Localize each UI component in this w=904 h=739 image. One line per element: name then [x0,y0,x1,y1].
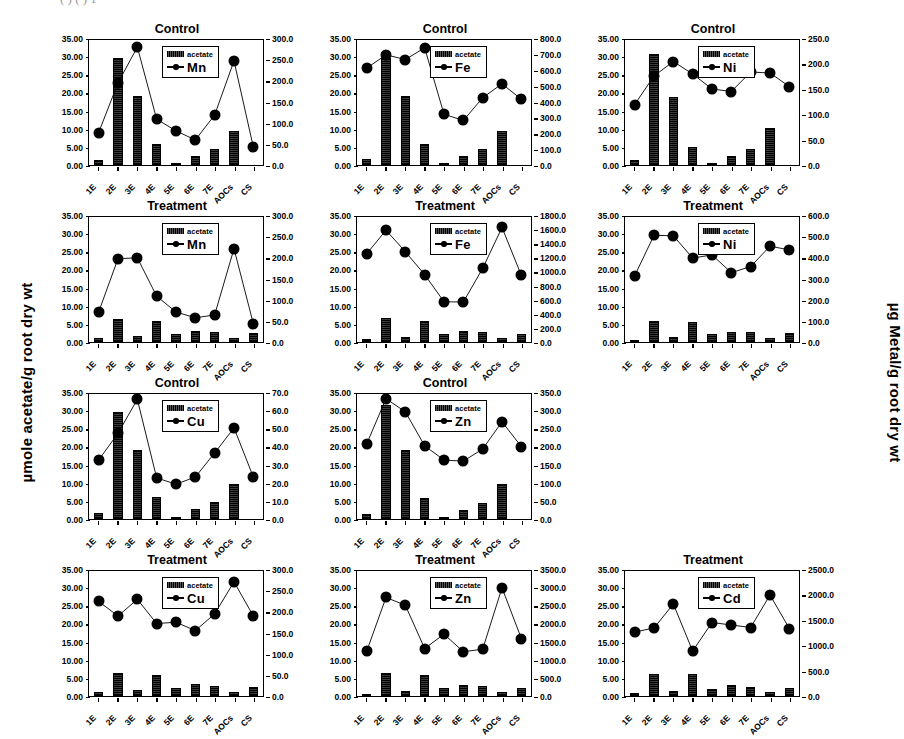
right-tick-label: 400.0 [540,98,561,108]
legend-line-marker [167,240,184,248]
x-tick [117,521,118,525]
right-tick-label: 3500.0 [540,565,566,575]
x-tick [653,344,654,348]
left-tick-label: 10.00 [598,125,619,135]
right-tick-label: 250.0 [808,34,829,44]
x-tick [235,521,236,525]
chart-legend: acetateMn [162,46,219,78]
metal-data-point [361,646,372,657]
chart-legend: acetateCu [162,400,219,432]
x-axis-labels: 1E2E3E4E5E6E7EAOCsCS [624,698,800,732]
left-tick-label: 20.00 [330,88,351,98]
metal-data-point [439,296,450,307]
legend-acetate-label: acetate [723,582,749,590]
metal-data-point [477,92,488,103]
x-tick [385,521,386,525]
right-tick-label: 500.0 [808,232,829,242]
left-tick-label: 20.00 [62,442,83,452]
chart-panel-ni-control: Control0.005.0010.0015.0020.0025.0030.00… [582,22,844,198]
left-axis-ticks: 0.005.0010.0015.0020.0025.0030.0035.00 [582,570,622,697]
metal-data-point [171,307,182,318]
right-tick-label: 2000.0 [808,590,834,600]
x-tick [215,521,216,525]
right-tick-label: 100.0 [272,119,293,129]
chart-legend: acetateCu [162,577,219,609]
x-tick [692,698,693,702]
left-tick-label: 5.00 [602,143,619,153]
right-tick-label: 600.0 [540,296,561,306]
panel-grid: Control0.005.0010.0015.0020.0025.0030.00… [46,22,836,732]
right-tick-label: 200.0 [540,442,561,452]
metal-data-point [381,49,392,60]
plot-frame: acetateCu [88,570,264,697]
x-tick [751,698,752,702]
left-tick-label: 15.00 [62,461,83,471]
plot-area: acetateNi [624,39,800,166]
legend-acetate-label: acetate [723,51,749,59]
right-axis-ticks: 0.050.0100.0150.0200.0250.0300.0 [266,570,308,697]
x-tick [117,167,118,171]
left-tick-label: 30.00 [62,406,83,416]
x-tick [483,344,484,348]
left-tick-label: 20.00 [598,265,619,275]
metal-data-point [668,230,679,241]
left-tick-label: 20.00 [62,265,83,275]
metal-data-point [649,71,660,82]
x-tick [156,344,157,348]
left-tick-label: 35.00 [62,565,83,575]
panel-title: Treatment [314,199,576,213]
right-tick-label: 70.0 [272,388,289,398]
left-tick-label: 35.00 [62,211,83,221]
left-tick-label: 0.00 [334,161,351,171]
metal-data-point [765,241,776,252]
metal-data-point [745,261,756,272]
plot-area: acetateMn [88,39,264,166]
right-axis-ticks: 0.0100.0200.0300.0400.0500.0600.0 [802,216,844,343]
metal-data-point [497,416,508,427]
right-tick-label: 400.0 [540,310,561,320]
metal-data-point [93,455,104,466]
left-tick-label: 10.00 [330,302,351,312]
chart-legend: acetateNi [698,223,755,255]
metal-data-point [132,394,143,405]
x-tick [464,344,465,348]
metal-data-point [629,99,640,110]
metal-data-point [784,81,795,92]
x-tick [196,167,197,171]
right-tick-label: 0.0 [540,338,552,348]
x-tick [673,167,674,171]
legend-acetate-swatch [435,51,452,57]
left-tick-label: 30.00 [330,229,351,239]
metal-data-point [93,596,104,607]
right-tick-label: 1400.0 [540,239,566,249]
metal-data-point [113,428,124,439]
left-tick-label: 25.00 [598,70,619,80]
metal-data-point [419,440,430,451]
plot-area: acetateCd [624,570,800,697]
metal-data-point [765,68,776,79]
plot-frame: acetateMn [88,39,264,166]
right-tick-label: 0.0 [272,692,284,702]
x-tick [235,698,236,702]
x-tick [634,167,635,171]
left-tick-label: 15.00 [62,638,83,648]
plot-area: acetateFe [356,39,532,166]
right-tick-label: 250.0 [272,232,293,242]
right-tick-label: 1000.0 [540,656,566,666]
x-tick [444,344,445,348]
right-tick-label: 100.0 [272,296,293,306]
x-tick [385,344,386,348]
legend-acetate-label: acetate [455,228,481,236]
left-tick-label: 5.00 [334,497,351,507]
x-tick [522,698,523,702]
legend-line-marker [167,594,184,602]
right-tick-label: 2500.0 [808,565,834,575]
metal-data-point [629,627,640,638]
right-axis-ticks: 0.050.0100.0150.0200.0250.0300.0 [266,39,308,166]
left-tick-label: 35.00 [330,565,351,575]
right-tick-label: 0.0 [540,692,552,702]
right-axis-ticks: 0.010.020.030.040.050.060.070.0 [266,393,308,520]
right-tick-label: 150.0 [540,461,561,471]
plot-frame: acetateFe [356,39,532,166]
metal-data-point [190,312,201,323]
